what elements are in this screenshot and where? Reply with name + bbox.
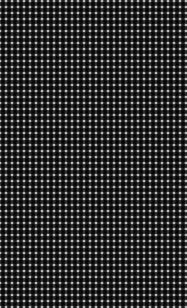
texture-swatch: Black and white gingham plaid woven text… <box>0 0 187 308</box>
gingham-pattern-canvas <box>0 0 187 308</box>
